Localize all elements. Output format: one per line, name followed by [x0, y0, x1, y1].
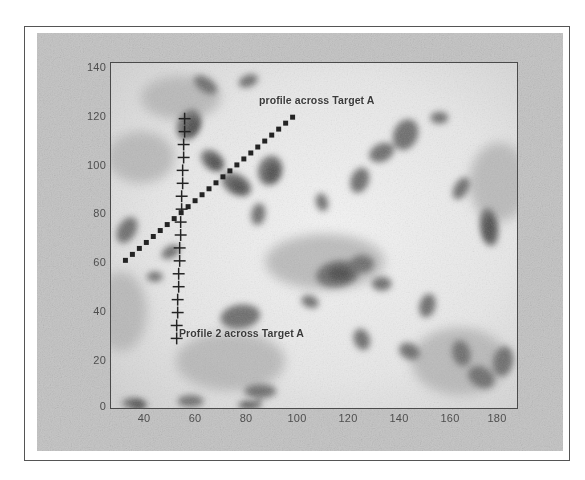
xtick-label-180: 180 [488, 412, 507, 424]
xtick-label-40: 40 [138, 412, 151, 424]
ytick-label-120: 120 [87, 110, 106, 122]
xtick-label-80: 80 [240, 412, 253, 424]
grayscale-intensity-image [111, 63, 517, 408]
xtick-label-160: 160 [441, 412, 460, 424]
ytick-label-80: 80 [93, 207, 106, 219]
ytick-label-140: 140 [87, 61, 106, 73]
ytick-label-20: 20 [93, 354, 106, 366]
annotation-profile-1: profile across Target A [259, 94, 375, 106]
ytick-label-60: 60 [93, 256, 106, 268]
xtick-label-140: 140 [390, 412, 409, 424]
annotation-profile-2: Profile 2 across Target A [179, 327, 304, 339]
ytick-label-100: 100 [87, 159, 106, 171]
xtick-label-100: 100 [288, 412, 307, 424]
ytick-label-40: 40 [93, 305, 106, 317]
xtick-label-120: 120 [339, 412, 358, 424]
xtick-label-60: 60 [189, 412, 202, 424]
plot-axes-frame: profile across Target A Profile 2 across… [110, 62, 518, 409]
ytick-label-0: 0 [100, 400, 106, 412]
screenshot-root: 140 120 100 80 60 40 20 0 40 60 80 100 1… [0, 0, 585, 480]
